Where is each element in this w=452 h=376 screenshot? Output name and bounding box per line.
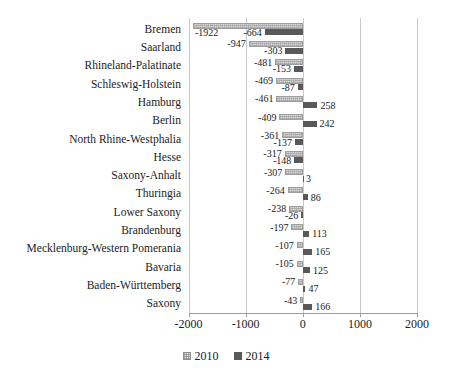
- value-label-2014-12: 165: [315, 246, 330, 257]
- category-label-9: Thuringia: [0, 186, 181, 201]
- legend: 2010 2014: [0, 347, 452, 365]
- bar-2010-11: [291, 224, 302, 230]
- value-label-2014-1: -303: [264, 45, 282, 56]
- category-label-8: Saxony-Anhalt: [0, 168, 181, 183]
- category-label-15: Saxony: [0, 296, 181, 311]
- bar-2014-15: [303, 304, 312, 310]
- bar-2010-12: [297, 242, 303, 248]
- legend-item-2010: 2010: [183, 349, 219, 364]
- value-label-2010-2: -481: [254, 57, 272, 68]
- legend-swatch-2010-icon: [183, 352, 191, 360]
- category-label-4: Hamburg: [0, 95, 181, 110]
- category-label-2: Rhineland-Palatinate: [0, 58, 181, 73]
- legend-label-2010: 2010: [195, 349, 219, 364]
- category-label-5: Berlin: [0, 113, 181, 128]
- category-label-13: Bavaria: [0, 260, 181, 275]
- bar-2014-4: [303, 102, 318, 108]
- value-label-2010-1: -947: [227, 38, 245, 49]
- bar-2014-0: [265, 29, 303, 35]
- x-tick-label--1000: -1000: [218, 317, 274, 331]
- x-tick-label-1000: 1000: [332, 317, 388, 331]
- category-label-12: Mecklenburg-Western Pomerania: [0, 241, 181, 256]
- bar-2010-4: [276, 96, 302, 102]
- value-label-2010-5: -409: [258, 112, 276, 123]
- value-label-2014-14: 47: [308, 283, 318, 294]
- value-label-2014-10: -26: [285, 210, 298, 221]
- gridline-1000: [360, 18, 361, 313]
- bar-2014-5: [303, 121, 317, 127]
- value-label-2010-9: -264: [266, 185, 284, 196]
- value-label-2010-8: -307: [264, 167, 282, 178]
- bar-2014-7: [294, 157, 302, 163]
- bar-2014-8: [303, 176, 304, 182]
- value-label-2014-9: 86: [311, 192, 321, 203]
- bar-2014-2: [294, 66, 303, 72]
- bar-2010-9: [288, 187, 303, 193]
- bar-2014-13: [303, 267, 310, 273]
- value-label-2014-2: -153: [273, 63, 291, 74]
- value-label-2010-11: -197: [270, 222, 288, 233]
- legend-label-2014: 2014: [246, 349, 270, 364]
- value-label-2014-15: 166: [315, 301, 330, 312]
- gridline--1000: [246, 18, 247, 313]
- category-label-14: Baden-Württemberg: [0, 278, 181, 293]
- category-label-0: Bremen: [0, 22, 181, 37]
- category-label-1: Saarland: [0, 40, 181, 55]
- bar-2010-13: [297, 261, 303, 267]
- value-label-2010-4: -461: [255, 93, 273, 104]
- value-label-2010-10: -238: [268, 203, 286, 214]
- value-label-2010-15: -43: [284, 295, 297, 306]
- value-label-2014-6: -137: [274, 137, 292, 148]
- value-label-2014-4: 258: [320, 100, 335, 111]
- value-label-2014-11: 113: [312, 228, 327, 239]
- category-label-10: Lower Saxony: [0, 205, 181, 220]
- category-label-3: Schleswig-Holstein: [0, 77, 181, 92]
- category-label-11: Brandenburg: [0, 223, 181, 238]
- value-label-2014-8: 3: [306, 173, 311, 184]
- legend-swatch-2014-icon: [234, 352, 242, 360]
- bar-2010-14: [298, 279, 302, 285]
- x-tick-label--2000: -2000: [161, 317, 217, 331]
- category-label-7: Hesse: [0, 150, 181, 165]
- bar-2014-3: [298, 84, 303, 90]
- bar-2014-14: [303, 286, 306, 292]
- bar-2010-15: [300, 297, 302, 303]
- bar-2014-12: [303, 249, 312, 255]
- value-label-2014-3: -87: [281, 82, 294, 93]
- bar-2014-1: [285, 48, 302, 54]
- value-label-2010-14: -77: [282, 276, 295, 287]
- value-label-2014-13: 125: [313, 265, 328, 276]
- bar-2014-6: [295, 139, 303, 145]
- value-label-2010-13: -105: [275, 258, 293, 269]
- bar-2014-10: [301, 212, 302, 218]
- x-tick-label-0: 0: [275, 317, 331, 331]
- value-label-2014-5: 242: [320, 118, 335, 129]
- value-label-2014-7: -148: [273, 155, 291, 166]
- bar-2014-9: [303, 194, 308, 200]
- bar-2010-8: [285, 169, 303, 175]
- value-label-2010-12: -107: [275, 240, 293, 251]
- legend-item-2014: 2014: [234, 349, 270, 364]
- bar-2010-5: [279, 114, 302, 120]
- bar-chart: -1922-947-481-469-461-409-361-317-307-26…: [0, 0, 452, 376]
- x-tick-label-2000: 2000: [389, 317, 445, 331]
- gridline-2000: [417, 18, 418, 313]
- bar-2014-11: [303, 231, 309, 237]
- gridline--2000: [189, 18, 190, 313]
- category-label-6: North Rhine-Westphalia: [0, 132, 181, 147]
- value-label-2010-3: -469: [255, 75, 273, 86]
- value-label-2014-0: -664: [243, 27, 261, 38]
- value-label-2010-0: -1922: [195, 27, 218, 38]
